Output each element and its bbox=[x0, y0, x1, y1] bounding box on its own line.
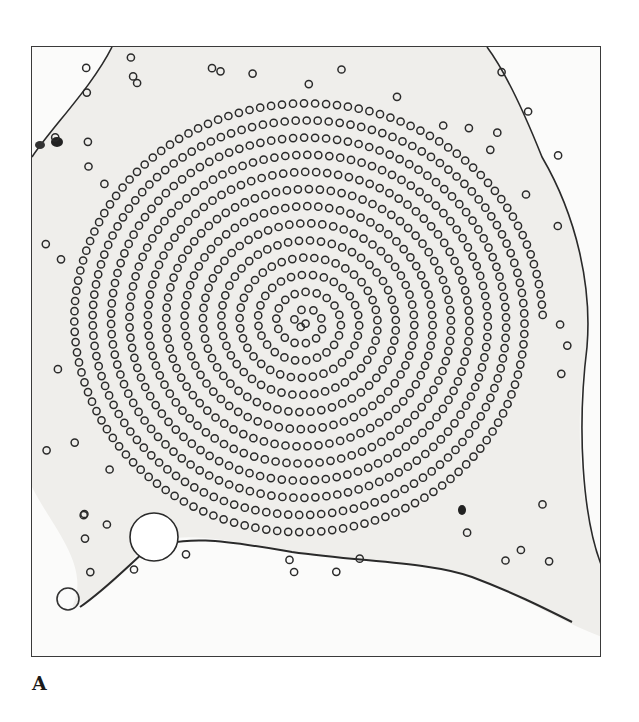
micrograph-image bbox=[32, 47, 601, 657]
dark-granule bbox=[51, 137, 63, 147]
dark-granule bbox=[458, 505, 466, 515]
dark-granule bbox=[35, 141, 45, 149]
microtubule-ring bbox=[555, 152, 562, 159]
microtubule-ring bbox=[333, 568, 340, 575]
microtubule-ring bbox=[182, 551, 189, 558]
microtubule-ring bbox=[286, 556, 293, 563]
microtubule-ring bbox=[83, 64, 90, 71]
microtubule-ring bbox=[525, 108, 532, 115]
panel-label: A bbox=[32, 672, 47, 694]
vesicle bbox=[130, 513, 178, 561]
microtubule-ring bbox=[130, 566, 137, 573]
micrograph-frame bbox=[31, 46, 601, 657]
microtubule-ring bbox=[291, 568, 298, 575]
